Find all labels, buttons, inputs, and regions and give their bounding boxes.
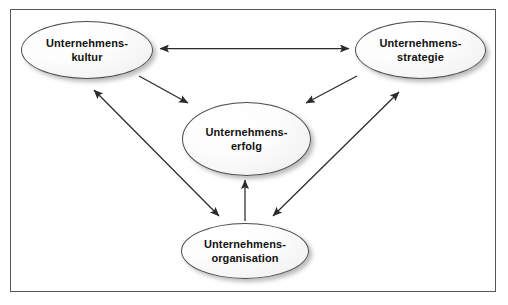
node-label-organisation: Unternehmens- organisation bbox=[198, 237, 292, 265]
node-label-strategie: Unternehmens- strategie bbox=[374, 36, 468, 64]
edge-strategie-erfolg bbox=[306, 76, 357, 103]
node-unternehmenskultur[interactable]: Unternehmens- kultur bbox=[21, 21, 153, 79]
node-label-kultur: Unternehmens- kultur bbox=[40, 36, 134, 64]
diagram-root: Unternehmens- kultur Unternehmens- strat… bbox=[0, 0, 508, 305]
node-unternehmenserfolg[interactable]: Unternehmens- erfolg bbox=[182, 102, 311, 176]
node-label-erfolg: Unternehmens- erfolg bbox=[200, 125, 294, 153]
edge-kultur-erfolg bbox=[139, 76, 188, 103]
node-unternehmensorganisation[interactable]: Unternehmens- organisation bbox=[181, 223, 309, 279]
node-unternehmensstrategie[interactable]: Unternehmens- strategie bbox=[355, 21, 486, 79]
